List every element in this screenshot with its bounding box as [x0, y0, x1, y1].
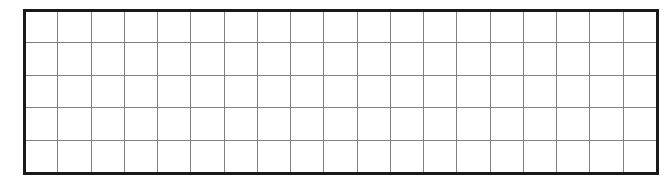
grid-cell[interactable]	[623, 140, 657, 172]
grid-cell[interactable]	[25, 140, 58, 172]
grid-cell[interactable]	[424, 11, 457, 43]
grid-cell[interactable]	[490, 75, 523, 107]
grid-cell[interactable]	[590, 11, 623, 43]
grid-cell[interactable]	[224, 75, 257, 107]
grid-row	[25, 75, 657, 107]
grid-cell[interactable]	[457, 108, 490, 140]
grid-cell[interactable]	[291, 108, 324, 140]
grid-cell[interactable]	[390, 108, 423, 140]
grid-cell[interactable]	[191, 75, 224, 107]
grid-cell[interactable]	[124, 11, 157, 43]
grid-cell[interactable]	[424, 75, 457, 107]
grid-cell[interactable]	[523, 140, 556, 172]
grid-cell[interactable]	[25, 11, 58, 43]
grid-cell[interactable]	[424, 43, 457, 75]
grid-cell[interactable]	[457, 75, 490, 107]
grid-cell[interactable]	[257, 140, 290, 172]
grid-cell[interactable]	[424, 140, 457, 172]
grid-cell[interactable]	[557, 11, 590, 43]
grid-cell[interactable]	[557, 140, 590, 172]
grid-cell[interactable]	[357, 43, 390, 75]
grid-cell[interactable]	[58, 75, 91, 107]
grid-cell[interactable]	[91, 140, 124, 172]
grid-cell[interactable]	[623, 75, 657, 107]
grid-cell[interactable]	[457, 43, 490, 75]
grid-cell[interactable]	[457, 140, 490, 172]
grid-cell[interactable]	[357, 75, 390, 107]
grid-cell[interactable]	[523, 43, 556, 75]
grid-cell[interactable]	[291, 43, 324, 75]
grid-cell[interactable]	[291, 75, 324, 107]
grid-cell[interactable]	[490, 140, 523, 172]
grid-cell[interactable]	[124, 108, 157, 140]
grid-cell[interactable]	[390, 140, 423, 172]
grid-cell[interactable]	[25, 43, 58, 75]
grid-cell[interactable]	[623, 43, 657, 75]
grid-cell[interactable]	[158, 75, 191, 107]
grid-cell[interactable]	[158, 108, 191, 140]
grid-cell[interactable]	[224, 43, 257, 75]
grid-cell[interactable]	[357, 108, 390, 140]
grid-cell[interactable]	[390, 75, 423, 107]
grid-cell[interactable]	[257, 43, 290, 75]
grid-cell[interactable]	[191, 11, 224, 43]
grid-cell[interactable]	[224, 108, 257, 140]
grid-cell[interactable]	[590, 140, 623, 172]
grid-cell[interactable]	[158, 11, 191, 43]
grid-cell[interactable]	[124, 43, 157, 75]
grid-cell[interactable]	[257, 108, 290, 140]
grid-cell[interactable]	[490, 108, 523, 140]
grid-cell[interactable]	[91, 43, 124, 75]
grid-cell[interactable]	[557, 43, 590, 75]
grid-cell[interactable]	[324, 75, 357, 107]
grid-cell[interactable]	[124, 75, 157, 107]
grid-cell[interactable]	[324, 108, 357, 140]
grid-cell[interactable]	[158, 43, 191, 75]
grid-row	[25, 108, 657, 140]
grid-row	[25, 140, 657, 172]
grid-cell[interactable]	[557, 75, 590, 107]
grid-cell[interactable]	[523, 108, 556, 140]
grid-cell[interactable]	[291, 11, 324, 43]
grid-cell[interactable]	[191, 43, 224, 75]
grid-cell[interactable]	[257, 11, 290, 43]
grid-cell[interactable]	[557, 108, 590, 140]
grid-cell[interactable]	[390, 43, 423, 75]
grid-cell[interactable]	[291, 140, 324, 172]
grid-cell[interactable]	[424, 108, 457, 140]
grid-cell[interactable]	[91, 108, 124, 140]
grid-cell[interactable]	[590, 75, 623, 107]
grid-row	[25, 11, 657, 43]
grid-cell[interactable]	[324, 140, 357, 172]
grid-cell[interactable]	[390, 11, 423, 43]
grid-cell[interactable]	[58, 11, 91, 43]
grid-cell[interactable]	[158, 140, 191, 172]
grid-cell[interactable]	[623, 11, 657, 43]
grid-cell[interactable]	[324, 43, 357, 75]
grid-cell[interactable]	[590, 108, 623, 140]
grid-cell[interactable]	[58, 108, 91, 140]
grid-cell[interactable]	[58, 140, 91, 172]
grid-cell[interactable]	[490, 43, 523, 75]
grid-cell[interactable]	[25, 108, 58, 140]
grid-cell[interactable]	[523, 11, 556, 43]
grid-cell[interactable]	[324, 11, 357, 43]
grid-cell[interactable]	[490, 11, 523, 43]
blank-grid-table	[24, 10, 657, 173]
grid-cell[interactable]	[257, 75, 290, 107]
grid-cell[interactable]	[25, 75, 58, 107]
grid-cell[interactable]	[91, 75, 124, 107]
grid-cell[interactable]	[224, 140, 257, 172]
grid-cell[interactable]	[357, 140, 390, 172]
grid-cell[interactable]	[224, 11, 257, 43]
grid-cell[interactable]	[191, 140, 224, 172]
grid-cell[interactable]	[58, 43, 91, 75]
grid-cell[interactable]	[124, 140, 157, 172]
grid-cell[interactable]	[457, 11, 490, 43]
grid-cell[interactable]	[191, 108, 224, 140]
grid-cell[interactable]	[523, 75, 556, 107]
grid-cell[interactable]	[357, 11, 390, 43]
grid-cell[interactable]	[623, 108, 657, 140]
grid-cell[interactable]	[91, 11, 124, 43]
grid-cell[interactable]	[590, 43, 623, 75]
